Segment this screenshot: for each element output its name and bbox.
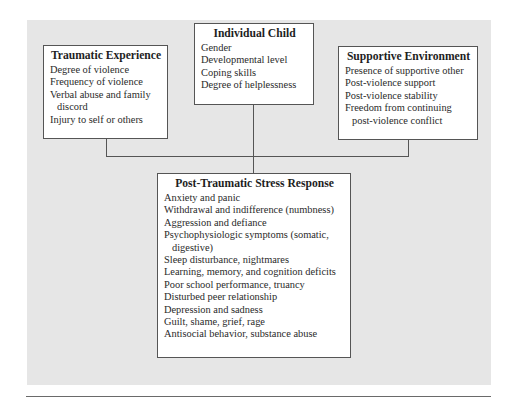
connector-traumatic-down — [106, 139, 107, 156]
list-item: Injury to self or others — [50, 114, 162, 126]
post-traumatic-stress-response-list: Anxiety and panic Withdrawal and indiffe… — [164, 192, 345, 341]
list-item: Aggression and defiance — [164, 217, 345, 229]
individual-child-list: Gender Developmental level Coping skills… — [201, 42, 308, 92]
traumatic-experience-title: Traumatic Experience — [50, 49, 162, 63]
individual-child-title: Individual Child — [201, 27, 308, 41]
individual-child-box: Individual Child Gender Developmental le… — [194, 23, 314, 105]
list-item: Degree of violence — [50, 64, 162, 76]
list-item: Anxiety and panic — [164, 192, 345, 204]
connector-individual-to-response — [253, 105, 254, 173]
list-item: Depression and sadness — [164, 304, 345, 316]
list-item: Freedom from continuing post-violence co… — [345, 102, 472, 127]
list-item: Withdrawal and indifference (numbness) — [164, 204, 345, 216]
list-item: Poor school performance, truancy — [164, 279, 345, 291]
list-item: Coping skills — [201, 67, 308, 79]
supportive-environment-box: Supportive Environment Presence of suppo… — [338, 46, 478, 140]
list-item: Post-violence support — [345, 77, 472, 89]
connector-supportive-down — [408, 140, 409, 156]
list-item: Learning, memory, and cognition deficits — [164, 266, 345, 278]
list-item: Antisocial behavior, substance abuse — [164, 328, 345, 340]
list-item: Guilt, shame, grief, rage — [164, 316, 345, 328]
list-item: Frequency of violence — [50, 76, 162, 88]
post-traumatic-stress-response-title: Post-Traumatic Stress Response — [164, 177, 345, 191]
list-item: Verbal abuse and family discord — [50, 89, 162, 114]
traumatic-experience-box: Traumatic Experience Degree of violence … — [43, 45, 168, 139]
connector-horizontal — [106, 156, 409, 157]
list-item: Sleep disturbance, nightmares — [164, 254, 345, 266]
bottom-rule-divider — [26, 396, 491, 397]
supportive-environment-list: Presence of supportive other Post-violen… — [345, 65, 472, 127]
list-item: Developmental level — [201, 54, 308, 66]
list-item: Psychophysiologic symptoms (somatic, dig… — [164, 229, 345, 254]
post-traumatic-stress-response-box: Post-Traumatic Stress Response Anxiety a… — [157, 173, 351, 358]
list-item: Post-violence stability — [345, 90, 472, 102]
supportive-environment-title: Supportive Environment — [345, 50, 472, 64]
traumatic-experience-list: Degree of violence Frequency of violence… — [50, 64, 162, 126]
list-item: Presence of supportive other — [345, 65, 472, 77]
list-item: Degree of helplessness — [201, 79, 308, 91]
list-item: Disturbed peer relationship — [164, 291, 345, 303]
list-item: Gender — [201, 42, 308, 54]
